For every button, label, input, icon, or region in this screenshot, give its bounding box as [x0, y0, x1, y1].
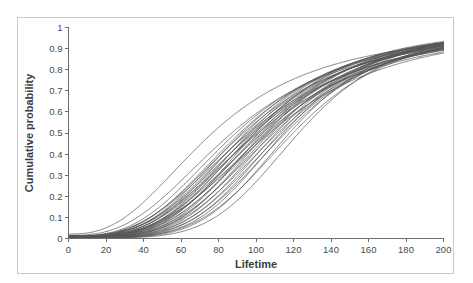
cumulative-probability-chart: 00.10.20.30.40.50.60.70.80.9102040608010… — [0, 0, 473, 283]
y-axis-tick-label: 0.3 — [49, 170, 62, 181]
x-axis-tick-label: 180 — [398, 244, 414, 255]
cdf-curve — [69, 53, 444, 236]
x-axis-tick-label: 20 — [101, 244, 112, 255]
x-axis-tick-label: 140 — [323, 244, 339, 255]
cdf-curve — [69, 50, 444, 237]
x-axis-tick-label: 40 — [138, 244, 149, 255]
y-axis-tick-label: 0.7 — [49, 85, 62, 96]
y-axis-tick-label: 0.9 — [49, 43, 62, 54]
y-axis-tick-label: 0.4 — [49, 149, 62, 160]
cdf-curve — [69, 49, 444, 237]
cdf-curve — [69, 42, 444, 237]
x-axis-tick-label: 200 — [436, 244, 452, 255]
cdf-curve — [69, 50, 444, 237]
x-axis-tick-label: 120 — [286, 244, 302, 255]
y-axis-tick-label: 0.8 — [49, 64, 62, 75]
x-axis-title: Lifetime — [235, 258, 277, 270]
y-axis-tick-label: 0.1 — [49, 212, 62, 223]
cdf-curve — [69, 45, 444, 234]
y-axis-tick-label: 0.2 — [49, 191, 62, 202]
cdf-curve — [69, 50, 444, 236]
cdf-curve — [69, 42, 444, 236]
y-axis-tick-label: 0.6 — [49, 106, 62, 117]
figure-container: 00.10.20.30.40.50.60.70.80.9102040608010… — [0, 0, 473, 283]
x-axis-tick-label: 80 — [213, 244, 224, 255]
y-axis-title: Cumulative probability — [23, 73, 35, 192]
y-axis-tick-label: 0.5 — [49, 127, 62, 138]
x-axis-tick-label: 0 — [66, 244, 71, 255]
x-axis-tick-label: 100 — [248, 244, 264, 255]
cdf-curve — [69, 43, 444, 238]
x-axis-tick-label: 160 — [361, 244, 377, 255]
cdf-curve — [69, 45, 444, 237]
cdf-curves-group — [69, 42, 444, 238]
y-axis-tick-label: 1 — [57, 22, 62, 33]
y-axis-tick-label: 0 — [57, 233, 62, 244]
x-axis-tick-label: 60 — [176, 244, 187, 255]
